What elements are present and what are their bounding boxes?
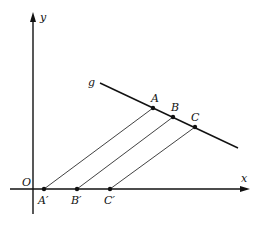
- point-b: [171, 115, 175, 119]
- parallel-projection-diagram: y x O g A B C A′ B′ C′: [0, 0, 254, 225]
- point-c: [193, 125, 197, 129]
- point-c-prime: [108, 187, 112, 191]
- y-axis-arrow-icon: [30, 12, 36, 22]
- x-axis-arrow-icon: [240, 186, 250, 192]
- line-g-label: g: [88, 76, 95, 89]
- point-c-label: C: [191, 111, 200, 124]
- point-b-prime-label: B′: [70, 194, 82, 207]
- line-g: [100, 83, 238, 148]
- point-b-prime: [75, 187, 79, 191]
- point-a-prime: [42, 187, 46, 191]
- point-b-label: B: [170, 101, 179, 114]
- point-c-prime-label: C′: [104, 194, 115, 207]
- point-a: [151, 106, 155, 110]
- projection-line-c: [110, 127, 195, 189]
- x-axis-label: x: [241, 172, 248, 185]
- point-a-prime-label: A′: [37, 194, 49, 207]
- projection-line-a: [44, 108, 153, 189]
- origin-label: O: [22, 176, 31, 189]
- y-axis-label: y: [39, 11, 47, 24]
- point-a-label: A: [150, 92, 159, 105]
